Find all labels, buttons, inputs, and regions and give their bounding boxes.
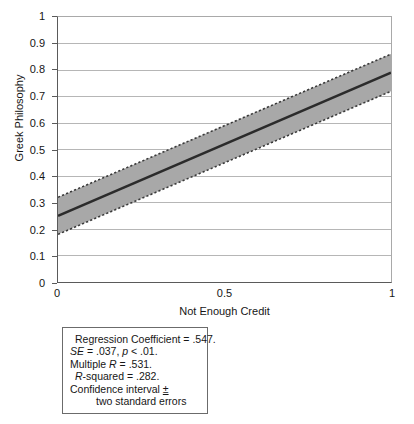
stats-line-confidence-interval: Confidence interval ±: [70, 383, 201, 395]
confidence-band-lower-edge: [58, 91, 391, 234]
y-tick-mark-0.9: [52, 43, 57, 44]
r-squared-value: -squared = .282.: [83, 370, 160, 382]
stats-line-two-standard-errors: two standard errors: [70, 395, 201, 407]
y-tick-mark-0.7: [52, 96, 57, 97]
y-tick-mark-0.8: [52, 69, 57, 70]
multiple-r-value: = .531.: [117, 358, 152, 370]
y-tick-label-0.5: 0.5: [30, 144, 45, 155]
y-tick-label-0.8: 0.8: [30, 64, 45, 75]
y-tick-label-0: 0: [39, 278, 45, 289]
y-tick-mark-1: [52, 16, 57, 17]
r-symbol: R: [109, 358, 117, 370]
y-tick-label-0.2: 0.2: [30, 224, 45, 235]
x-tick-label-1: 1: [389, 288, 395, 299]
se-symbol: SE: [70, 345, 84, 357]
confidence-interval-label: Confidence interval: [70, 383, 163, 395]
p-value: < .01.: [128, 345, 157, 357]
se-value: = .037,: [84, 345, 122, 357]
y-tick-label-1: 1: [39, 11, 45, 22]
y-tick-mark-0.2: [52, 230, 57, 231]
stats-line-r-squared: R-squared = .282.: [70, 370, 201, 382]
stats-line-standard-error: SE = .037, p < .01.: [70, 345, 201, 357]
x-tick-label-0.5: 0.5: [217, 288, 232, 299]
multiple-label: Multiple: [70, 358, 109, 370]
statistics-annotation-box: Regression Coefficient = .547. SE = .037…: [62, 327, 208, 414]
confidence-band-upper-edge: [58, 54, 391, 197]
r-squared-symbol: R: [75, 370, 83, 382]
y-tick-mark-0.1: [52, 256, 57, 257]
y-axis-title: Greek Philosophy: [13, 43, 25, 193]
x-tick-label-0: 0: [54, 288, 60, 299]
y-tick-label-0.6: 0.6: [30, 117, 45, 128]
y-tick-label-0.7: 0.7: [30, 91, 45, 102]
y-tick-mark-0.3: [52, 203, 57, 204]
y-tick-mark-0.4: [52, 176, 57, 177]
y-axis: Greek Philosophy 1 0.9 0.8 0.7 0.6 0.5 0…: [0, 0, 53, 299]
y-tick-mark-0: [52, 283, 57, 284]
regression-line: [58, 73, 391, 216]
plus-minus-icon: ±: [163, 383, 169, 395]
stats-line-regression-coefficient: Regression Coefficient = .547.: [70, 333, 201, 345]
stats-line-multiple-r: Multiple R = .531.: [70, 358, 201, 370]
regression-chart-figure: Greek Philosophy 1 0.9 0.8 0.7 0.6 0.5 0…: [0, 0, 414, 424]
y-tick-label-0.3: 0.3: [30, 197, 45, 208]
y-tick-mark-0.6: [52, 123, 57, 124]
x-axis-title: Not Enough Credit: [57, 305, 392, 317]
y-tick-label-0.1: 0.1: [30, 251, 45, 262]
plot-area: [57, 16, 392, 283]
confidence-band-and-regression-line: [58, 17, 391, 282]
y-tick-mark-0.5: [52, 150, 57, 151]
y-tick-label-0.4: 0.4: [30, 171, 45, 182]
y-tick-label-0.9: 0.9: [30, 37, 45, 48]
